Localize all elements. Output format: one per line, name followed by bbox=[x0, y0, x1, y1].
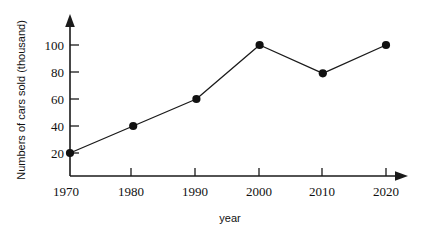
y-tick-label-80: 80 bbox=[51, 65, 64, 80]
y-axis-label: Numbers of cars sold (thousand) bbox=[15, 20, 27, 180]
data-point-1970 bbox=[66, 149, 74, 157]
y-tick-label-60: 60 bbox=[51, 92, 64, 107]
data-point-2000 bbox=[256, 41, 264, 49]
x-tick-label-2010: 2010 bbox=[309, 184, 335, 199]
data-line bbox=[70, 45, 386, 153]
y-tick-label-100: 100 bbox=[45, 38, 65, 53]
x-tick-label-1980: 1980 bbox=[118, 184, 144, 199]
y-axis-arrow-icon bbox=[65, 14, 75, 27]
y-tick-label-20: 20 bbox=[51, 146, 64, 161]
y-tick-label-40: 40 bbox=[51, 119, 64, 134]
line-chart: Numbers of cars sold (thousand) 20 40 60… bbox=[0, 0, 422, 236]
x-tick-label-2020: 2020 bbox=[373, 184, 399, 199]
x-tick-label-1970: 1970 bbox=[53, 184, 79, 199]
data-point-group bbox=[66, 41, 390, 157]
data-point-2020 bbox=[382, 41, 390, 49]
x-axis-arrow-icon bbox=[395, 171, 408, 181]
x-axis-label: year bbox=[219, 212, 241, 224]
x-tick-label-1990: 1990 bbox=[182, 184, 208, 199]
data-point-1990 bbox=[192, 95, 200, 103]
data-point-2010 bbox=[319, 69, 327, 77]
chart-canvas: Numbers of cars sold (thousand) 20 40 60… bbox=[0, 0, 422, 236]
data-point-1980 bbox=[129, 122, 137, 130]
x-tick-label-2000: 2000 bbox=[246, 184, 272, 199]
